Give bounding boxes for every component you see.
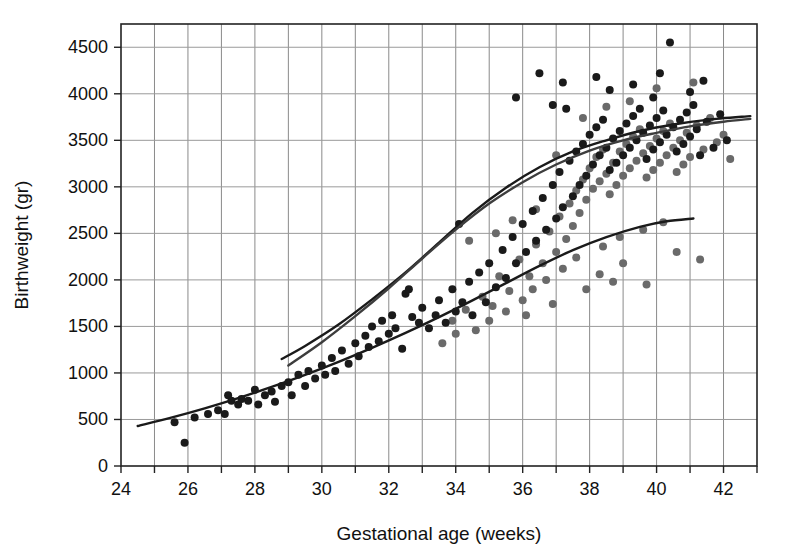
data-point [643, 174, 651, 182]
data-point [552, 214, 560, 222]
data-point [626, 144, 634, 152]
data-point [522, 248, 530, 256]
data-point [321, 371, 329, 379]
data-point [632, 157, 640, 165]
data-point [626, 97, 634, 105]
data-point [452, 330, 460, 338]
data-point [391, 324, 399, 332]
data-point [495, 272, 503, 280]
data-point [663, 151, 671, 159]
data-point [666, 39, 674, 47]
data-point [244, 397, 252, 405]
data-point [311, 375, 319, 383]
data-point [448, 285, 456, 293]
data-point [442, 319, 450, 327]
data-point [271, 398, 279, 406]
data-point [171, 418, 179, 426]
y-tick-label: 1500 [68, 316, 108, 336]
y-tick-label: 1000 [68, 363, 108, 383]
x-tick-label: 36 [513, 479, 533, 499]
data-point [709, 144, 717, 152]
data-point [559, 203, 567, 211]
data-point [606, 86, 614, 94]
data-point [656, 69, 664, 77]
data-point [519, 296, 527, 304]
data-point [405, 285, 413, 293]
y-tick-label: 4500 [68, 37, 108, 57]
data-point [254, 401, 262, 409]
data-point [539, 194, 547, 202]
data-point [542, 276, 550, 284]
data-point [592, 73, 600, 81]
data-point [622, 120, 630, 128]
data-point [616, 127, 624, 135]
data-point [592, 123, 600, 131]
data-point [626, 164, 634, 172]
data-point [619, 259, 627, 267]
data-point [345, 360, 353, 368]
data-point [569, 222, 577, 230]
data-point [221, 410, 229, 418]
data-point [465, 237, 473, 245]
data-point [572, 254, 580, 262]
data-point [566, 200, 574, 208]
y-tick-label: 3000 [68, 177, 108, 197]
data-point [425, 324, 433, 332]
data-point [472, 326, 480, 334]
data-point [686, 153, 694, 161]
data-point [438, 339, 446, 347]
data-point [509, 216, 517, 224]
data-point [532, 237, 540, 245]
data-point [606, 166, 614, 174]
data-point [408, 313, 416, 321]
data-point [689, 101, 697, 109]
data-point [579, 114, 587, 122]
data-point [529, 285, 537, 293]
data-point [556, 168, 564, 176]
data-point [673, 147, 681, 155]
y-axis-title: Birthweight (gr) [11, 181, 32, 310]
data-point [512, 259, 520, 267]
data-point [288, 391, 296, 399]
x-axis-title: Gestational age (weeks) [337, 523, 542, 544]
data-point [596, 151, 604, 159]
data-point [522, 311, 530, 319]
data-point [512, 94, 520, 102]
x-tick-label: 34 [446, 479, 466, 499]
data-point [629, 80, 637, 88]
data-point [686, 133, 694, 141]
data-point [576, 181, 584, 189]
x-tick-label: 28 [245, 479, 265, 499]
data-point [462, 306, 470, 314]
data-point [465, 278, 473, 286]
data-point [489, 302, 497, 310]
data-point [679, 140, 687, 148]
x-tick-label: 32 [379, 479, 399, 499]
data-point [482, 298, 490, 306]
data-point [699, 77, 707, 85]
y-tick-label: 2000 [68, 270, 108, 290]
data-point [301, 382, 309, 390]
data-point [388, 311, 396, 319]
data-point [492, 229, 500, 237]
data-point [643, 281, 651, 289]
data-point [606, 190, 614, 198]
x-axis-tick-labels: 24262830323436384042 [111, 479, 734, 499]
data-point [418, 304, 426, 312]
data-point [204, 410, 212, 418]
data-point [589, 161, 597, 169]
data-point [562, 235, 570, 243]
data-point [519, 220, 527, 228]
data-point [659, 107, 667, 115]
data-point [686, 88, 694, 96]
x-tick-label: 42 [714, 479, 734, 499]
data-point [726, 155, 734, 163]
data-point [636, 105, 644, 113]
data-point [552, 248, 560, 256]
data-point [612, 159, 620, 167]
data-point [549, 300, 557, 308]
data-point [214, 406, 222, 414]
data-point [549, 181, 557, 189]
data-point [576, 209, 584, 217]
data-point [475, 268, 483, 276]
